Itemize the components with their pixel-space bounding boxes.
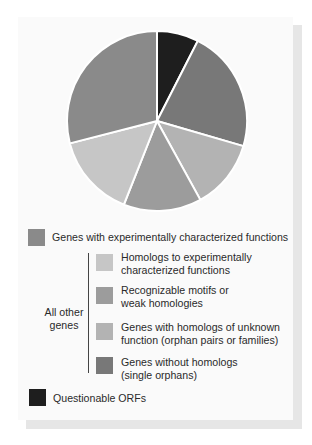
legend-label-single-orphans-line1: Genes without homologs — [121, 356, 238, 369]
legend-label-motifs: Recognizable motifs or weak homologies — [121, 284, 229, 309]
legend-swatch-experimental — [28, 229, 45, 246]
legend-label-homologs: Homologs to experimentally characterized… — [121, 251, 252, 276]
group-label: All other genes — [44, 306, 84, 331]
legend-label-orphan-pairs: Genes with homologs of unknown function … — [121, 321, 280, 346]
legend-label-questionable: Questionable ORFs — [53, 392, 146, 405]
group-label-line2: genes — [44, 319, 84, 332]
group-label-line1: All other — [44, 306, 84, 319]
legend-label-homologs-line2: characterized functions — [121, 264, 252, 277]
legend-swatch-questionable — [29, 389, 46, 406]
legend-label-orphan-pairs-line2: function (orphan pairs or families) — [121, 334, 280, 347]
legend-swatch-homologs — [96, 254, 113, 271]
legend-swatch-orphan-pairs — [96, 323, 113, 340]
legend-label-orphan-pairs-line1: Genes with homologs of unknown — [121, 321, 280, 334]
legend-label-motifs-line2: weak homologies — [121, 297, 229, 310]
legend-label-motifs-line1: Recognizable motifs or — [121, 284, 229, 297]
legend: Genes with experimentally characterized … — [0, 0, 312, 445]
legend-label-homologs-line1: Homologs to experimentally — [121, 251, 252, 264]
group-bracket — [88, 253, 89, 373]
legend-swatch-motifs — [96, 287, 113, 304]
legend-label-single-orphans: Genes without homologs (single orphans) — [121, 356, 238, 381]
legend-label-single-orphans-line2: (single orphans) — [121, 369, 238, 382]
legend-label-experimental: Genes with experimentally characterized … — [52, 231, 288, 244]
legend-swatch-single-orphans — [96, 357, 113, 374]
